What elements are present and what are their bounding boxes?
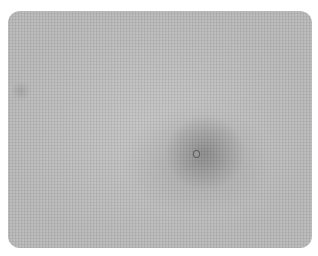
dark-spot xyxy=(193,150,200,158)
texture-overlay xyxy=(8,11,312,248)
photo xyxy=(8,11,312,248)
